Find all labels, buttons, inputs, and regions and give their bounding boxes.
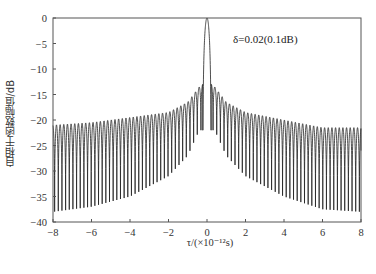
y-tick-label: −25 [31, 141, 47, 152]
y-tick-label: −20 [31, 115, 47, 126]
y-tick-label: −10 [31, 64, 47, 75]
y-tick-label: −15 [31, 90, 47, 101]
x-tick-label: −6 [86, 227, 97, 238]
y-tick-label: −35 [31, 192, 47, 203]
plot-area [53, 18, 361, 212]
y-tick-label: −40 [31, 217, 47, 228]
x-tick-label: 4 [281, 227, 287, 238]
x-tick-label: −8 [47, 227, 58, 238]
y-tick-label: 0 [42, 13, 47, 24]
y-tick-label: −30 [31, 166, 47, 177]
x-tick-label: 8 [358, 227, 363, 238]
y-axis-label: 自相干函数幅值/dB [3, 80, 19, 167]
x-tick-label: −4 [124, 227, 136, 238]
delta-annotation: δ=0.02(0.1dB) [233, 33, 298, 45]
autocorrelation-curve [53, 18, 361, 212]
chart-canvas: −8−6−4−2024680−5−10−15−20−25−30−35−40 [0, 0, 376, 274]
x-axis-label: τ/(×10⁻¹²s) [160, 236, 260, 248]
x-tick-label: 6 [320, 227, 325, 238]
plot-frame [53, 18, 361, 222]
y-tick-label: −5 [36, 39, 47, 50]
